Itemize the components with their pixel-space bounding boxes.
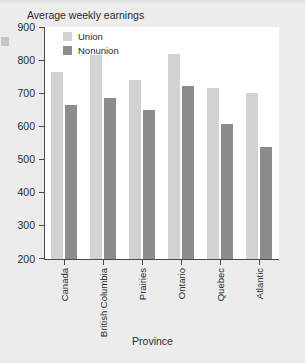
x-axis: CanadaBritish ColumbiaPrairiesOntarioQue… xyxy=(44,260,279,335)
bar-atlantic-union xyxy=(246,93,258,258)
y-axis-tick-label: 700 xyxy=(17,87,35,99)
x-axis-tick-label: Ontario xyxy=(176,268,187,299)
bar-british-columbia-nonunion xyxy=(104,98,116,258)
y-axis-tick-label: 800 xyxy=(17,54,35,66)
legend-item-nonunion: Nonunion xyxy=(63,45,119,56)
y-axis-tick-mark xyxy=(39,159,44,160)
y-axis-tick-label: 600 xyxy=(17,120,35,132)
x-axis-tick-label: Atlantic xyxy=(254,268,265,299)
y-axis-tick-mark xyxy=(39,60,44,61)
y-axis-tick-label: 300 xyxy=(17,219,35,231)
chart-legend: UnionNonunion xyxy=(63,31,119,56)
x-axis-tick-label: Prairies xyxy=(137,268,148,300)
page-top-edge xyxy=(0,0,305,4)
legend-label: Union xyxy=(78,31,103,42)
y-axis-tick-mark xyxy=(39,93,44,94)
y-axis-tick-label: 500 xyxy=(17,153,35,165)
y-axis-tick-label: 400 xyxy=(17,186,35,198)
bar-ontario-nonunion xyxy=(182,86,194,259)
bar-canada-union xyxy=(51,72,63,259)
x-axis-tick-label: Quebec xyxy=(215,268,226,301)
x-axis-tick-label: Canada xyxy=(59,268,70,301)
bar-quebec-nonunion xyxy=(221,124,233,259)
x-axis-tick-mark xyxy=(103,260,104,265)
bar-atlantic-nonunion xyxy=(260,147,272,258)
x-axis-tick-mark xyxy=(64,260,65,265)
bar-british-columbia-union xyxy=(90,55,102,258)
y-axis-tick-mark xyxy=(39,225,44,226)
plot-area xyxy=(44,27,279,260)
y-axis-tick-label: 200 xyxy=(17,253,35,265)
bar-prairies-union xyxy=(129,80,141,259)
bar-ontario-union xyxy=(168,54,180,258)
x-axis-tick-label: British Columbia xyxy=(98,268,109,337)
bar-prairies-nonunion xyxy=(143,110,155,259)
chart-title: Average weekly earnings xyxy=(27,9,144,21)
y-axis-tick-mark xyxy=(39,258,44,259)
legend-item-union: Union xyxy=(63,31,119,42)
x-axis-tick-mark xyxy=(181,260,182,265)
chart-page: Average weekly earnings UnionNonunion 90… xyxy=(0,0,305,363)
x-axis-tick-mark xyxy=(142,260,143,265)
y-axis: 900800700600500400300200 xyxy=(0,27,44,260)
y-axis-tick-mark xyxy=(39,126,44,127)
y-axis-tick-mark xyxy=(39,192,44,193)
bar-quebec-union xyxy=(207,88,219,258)
legend-swatch-icon xyxy=(63,46,72,55)
bars-layer xyxy=(44,27,279,260)
x-axis-title: Province xyxy=(0,335,305,347)
y-axis-tick-label: 900 xyxy=(17,21,35,33)
bar-canada-nonunion xyxy=(65,105,77,259)
legend-label: Nonunion xyxy=(78,45,119,56)
x-axis-tick-mark xyxy=(259,260,260,265)
y-axis-tick-mark xyxy=(39,27,44,28)
x-axis-tick-mark xyxy=(220,260,221,265)
legend-swatch-icon xyxy=(63,32,72,41)
